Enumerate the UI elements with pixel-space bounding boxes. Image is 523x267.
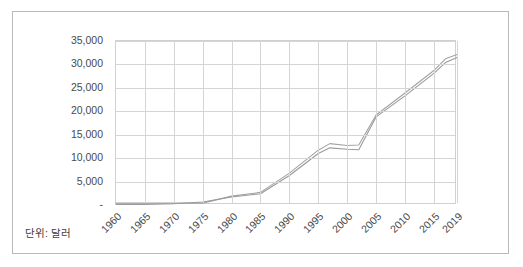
- gridline-vertical: [145, 41, 146, 203]
- chart-card: -5,00010,00015,00020,00025,00030,00035,0…: [12, 11, 509, 254]
- gridline-vertical: [289, 41, 290, 203]
- gridline-vertical: [318, 41, 319, 203]
- gridline-vertical: [174, 41, 175, 203]
- gridline-vertical: [347, 41, 348, 203]
- gridline-vertical: [405, 41, 406, 203]
- chart-figure: -5,00010,00015,00020,00025,00030,00035,0…: [13, 12, 508, 253]
- unit-note: 단위: 달러: [25, 225, 71, 240]
- y-axis-tick-label: 25,000: [71, 82, 103, 92]
- gridline-vertical: [457, 41, 458, 203]
- y-axis-tick-label: -: [100, 199, 104, 209]
- y-axis-tick-label: 30,000: [71, 58, 103, 68]
- gridline-vertical: [203, 41, 204, 203]
- y-axis-tick-label: 10,000: [71, 152, 103, 162]
- plot-area: [115, 40, 456, 204]
- gridline-vertical: [434, 41, 435, 203]
- y-axis-tick-label: 20,000: [71, 105, 103, 115]
- y-axis-labels: -5,00010,00015,00020,00025,00030,00035,0…: [13, 32, 109, 212]
- gridline-vertical: [232, 41, 233, 203]
- y-axis-tick-label: 15,000: [71, 129, 103, 139]
- x-axis-labels: 1960196519701975198019851990199520002005…: [115, 204, 456, 254]
- gridline-vertical: [376, 41, 377, 203]
- y-axis-tick-label: 5,000: [77, 176, 103, 186]
- y-axis-tick-label: 35,000: [71, 35, 103, 45]
- gridline-vertical: [260, 41, 261, 203]
